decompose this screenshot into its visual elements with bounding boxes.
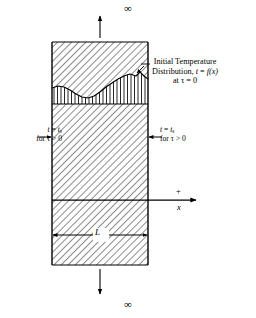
initial-temperature-annotation: Initial Temperature Distribution, t = f(…: [152, 57, 218, 86]
x-axis-plus-sign: +: [176, 186, 181, 196]
heat-transfer-slab-diagram: [0, 0, 256, 318]
infinity-label-top: ∞: [0, 2, 256, 15]
boundary-condition-right: t = ts for τ > 0: [160, 126, 186, 144]
infinity-label-bottom: ∞: [0, 298, 256, 311]
annotation-line-2: Distribution, t = f(x): [152, 67, 218, 77]
bc-left-line-2: for τ > 0: [6, 135, 62, 144]
annotation-line-3: at τ = 0: [152, 76, 218, 86]
bc-right-line-2: for τ > 0: [160, 135, 186, 144]
annotation-func-fx: f(x): [207, 67, 218, 76]
annotation-line-1: Initial Temperature: [152, 57, 218, 67]
dimension-label-L: L: [95, 227, 100, 238]
x-axis-label: x: [177, 202, 181, 212]
boundary-condition-left: t = ts for τ > 0: [6, 126, 62, 144]
